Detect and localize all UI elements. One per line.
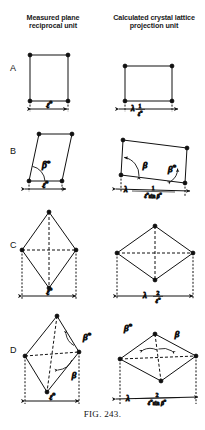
- shape-c-left: [20, 210, 78, 299]
- figure-243: Measured plane reciprocal unit Calculate…: [0, 0, 205, 430]
- svg-text:ℓ*sin β*: ℓ*sin β*: [148, 399, 167, 406]
- dim-label-a-right: λ 1 ℓ*: [130, 103, 145, 117]
- svg-text:1: 1: [139, 103, 142, 109]
- shape-d-left: [23, 314, 81, 404]
- angle-label-d-right-beta: β: [174, 329, 180, 339]
- svg-text:λ: λ: [130, 104, 135, 113]
- svg-text:ℓ*sin β*: ℓ*sin β*: [144, 192, 162, 199]
- svg-text:λ: λ: [142, 290, 147, 300]
- figure-caption: FIG. 243.: [0, 409, 205, 419]
- angle-label-b-left-betastar: β*: [41, 159, 51, 170]
- figure-drawing: ℓ* λ 1 ℓ*: [0, 0, 205, 430]
- shape-a-right: [119, 64, 178, 112]
- svg-text:ℓ*: ℓ*: [138, 110, 143, 117]
- svg-text:ℓ*: ℓ*: [156, 297, 161, 304]
- angle-label-d-left-beta: β: [71, 370, 77, 380]
- shape-c-right: [115, 224, 195, 299]
- angle-label-d-right-betastar: β*: [123, 322, 132, 333]
- angle-label-d-left-betastar: β*: [82, 331, 91, 342]
- svg-text:λ: λ: [123, 185, 128, 194]
- caption-text: FIG. 243.: [84, 409, 121, 419]
- svg-text:2: 2: [156, 392, 159, 398]
- angle-label-b-right-betastar: β*: [167, 163, 176, 174]
- svg-text:2: 2: [157, 290, 160, 296]
- dim-label-c-right: λ 2 ℓ*: [142, 290, 163, 304]
- svg-text:λ: λ: [125, 393, 130, 403]
- dim-label-b-right: λ 1 ℓ*sin β*: [123, 185, 175, 200]
- svg-text:1: 1: [152, 185, 155, 191]
- angle-label-b-right-beta: β: [142, 160, 148, 170]
